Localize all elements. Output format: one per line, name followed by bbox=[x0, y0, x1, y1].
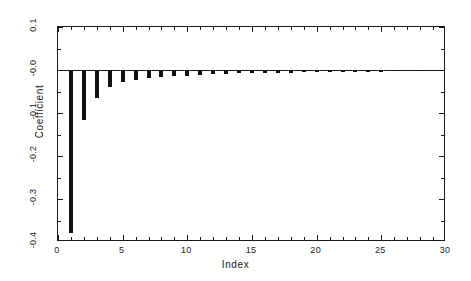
y-tick bbox=[58, 221, 61, 222]
x-tick bbox=[187, 235, 188, 240]
x-tick bbox=[343, 237, 344, 240]
x-tick bbox=[123, 235, 124, 240]
x-tick bbox=[407, 237, 408, 240]
x-tick-top bbox=[174, 27, 175, 30]
bar bbox=[289, 70, 293, 73]
y-tick-right bbox=[439, 70, 444, 71]
x-tick bbox=[381, 235, 382, 240]
x-tick bbox=[136, 237, 137, 240]
x-tick-top bbox=[226, 27, 227, 30]
bar bbox=[431, 70, 435, 71]
y-tick bbox=[58, 113, 63, 114]
bar bbox=[392, 70, 396, 71]
x-tick-top bbox=[433, 27, 434, 30]
x-tick-top bbox=[200, 27, 201, 30]
y-tick bbox=[58, 135, 61, 136]
x-tick-label: 10 bbox=[171, 245, 201, 255]
bar bbox=[82, 70, 86, 120]
x-tick-top bbox=[84, 27, 85, 30]
x-tick bbox=[317, 235, 318, 240]
y-tick-right bbox=[439, 27, 444, 28]
x-tick-top bbox=[407, 27, 408, 30]
x-tick-label: 15 bbox=[236, 245, 266, 255]
bar bbox=[276, 70, 280, 73]
bar bbox=[302, 70, 306, 72]
x-tick-top bbox=[343, 27, 344, 30]
y-tick bbox=[58, 178, 61, 179]
bar bbox=[237, 70, 241, 73]
x-tick bbox=[226, 237, 227, 240]
x-tick-top bbox=[110, 27, 111, 30]
x-tick bbox=[149, 237, 150, 240]
x-tick-top bbox=[187, 27, 188, 32]
x-tick bbox=[239, 237, 240, 240]
x-tick-top bbox=[136, 27, 137, 30]
bar bbox=[172, 70, 176, 76]
x-tick-label: 20 bbox=[301, 245, 331, 255]
y-tick-label: -0.4 bbox=[28, 223, 38, 257]
y-tick bbox=[58, 70, 63, 71]
bar bbox=[250, 70, 254, 73]
x-tick-top bbox=[239, 27, 240, 30]
x-tick-top bbox=[381, 27, 382, 32]
bar bbox=[379, 70, 383, 72]
bar bbox=[341, 70, 345, 72]
x-tick-top bbox=[97, 27, 98, 30]
x-tick bbox=[368, 237, 369, 240]
bar bbox=[95, 70, 99, 98]
y-tick-right bbox=[441, 49, 444, 50]
x-tick bbox=[84, 237, 85, 240]
bar bbox=[418, 70, 422, 71]
x-tick-top bbox=[368, 27, 369, 30]
x-tick-top bbox=[278, 27, 279, 30]
x-tick bbox=[420, 237, 421, 240]
y-tick-right bbox=[441, 92, 444, 93]
x-tick-top bbox=[420, 27, 421, 30]
x-tick-top bbox=[161, 27, 162, 30]
bar bbox=[198, 70, 202, 75]
y-tick-label: -0.0 bbox=[28, 51, 38, 85]
bar bbox=[185, 70, 189, 76]
x-tick bbox=[71, 237, 72, 240]
x-tick bbox=[394, 237, 395, 240]
y-tick bbox=[58, 92, 61, 93]
y-tick bbox=[58, 199, 63, 200]
x-tick bbox=[278, 237, 279, 240]
bar bbox=[263, 70, 267, 73]
y-tick-right bbox=[441, 178, 444, 179]
x-tick-top bbox=[265, 27, 266, 30]
chart-figure: Coefficient Index 0.1-0.0-0.1-0.2-0.3-0.… bbox=[0, 0, 471, 281]
x-tick bbox=[330, 237, 331, 240]
x-tick-label: 30 bbox=[430, 245, 460, 255]
x-tick-top bbox=[394, 27, 395, 30]
bar bbox=[328, 70, 332, 72]
x-tick-top bbox=[252, 27, 253, 32]
x-tick bbox=[355, 237, 356, 240]
x-axis-label: Index bbox=[0, 259, 471, 270]
x-tick bbox=[110, 237, 111, 240]
x-tick bbox=[58, 235, 59, 240]
y-tick-right bbox=[441, 135, 444, 136]
x-tick bbox=[97, 237, 98, 240]
x-tick-top bbox=[213, 27, 214, 30]
bar bbox=[315, 70, 319, 72]
x-tick-label: 0 bbox=[42, 245, 72, 255]
y-tick-right bbox=[439, 156, 444, 157]
x-tick-top bbox=[291, 27, 292, 30]
x-tick-top bbox=[355, 27, 356, 30]
x-tick-label: 5 bbox=[107, 245, 137, 255]
x-tick bbox=[213, 237, 214, 240]
x-tick-top bbox=[330, 27, 331, 30]
y-tick bbox=[58, 27, 63, 28]
bar bbox=[159, 70, 163, 77]
x-tick bbox=[161, 237, 162, 240]
y-tick-right bbox=[441, 221, 444, 222]
plot-frame bbox=[57, 26, 445, 241]
x-tick-top bbox=[71, 27, 72, 30]
y-tick-label: -0.1 bbox=[28, 94, 38, 128]
bar bbox=[353, 70, 357, 72]
y-tick-label: 0.1 bbox=[28, 8, 38, 42]
bar bbox=[405, 70, 409, 71]
x-tick bbox=[433, 237, 434, 240]
x-tick bbox=[200, 237, 201, 240]
